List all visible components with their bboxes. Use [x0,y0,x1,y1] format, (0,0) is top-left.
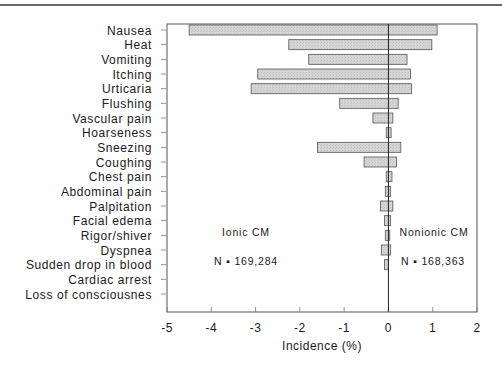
category-labels: NauseaHeatVomitingItchingUrticariaFlushi… [25,24,166,302]
x-tick-label: -3 [250,321,262,335]
x-tick-label: -1 [338,321,350,335]
x-tick-label: -2 [294,321,306,335]
nonionic-cm-label: Nonionic CM [400,226,469,238]
category-label: Hoarseness [82,126,152,140]
category-label: Dyspnea [100,244,152,258]
category-label: Flushing [102,97,152,111]
category-label: Rigor/shiver [81,229,152,243]
category-label: Urticaria [102,82,152,96]
bar-rigor-shiver [385,230,389,240]
bar-itching [258,69,411,79]
nonionic-cm-n: N ▪ 168,363 [401,255,465,267]
bar-nausea [189,25,437,35]
bar-facial-edema [384,216,390,226]
bar-vomiting [309,54,407,64]
bar-heat [289,40,432,50]
category-label: Abdominal pain [61,185,152,199]
ionic-cm-n: N ▪ 169,284 [214,255,278,267]
bar-urticaria [251,84,411,94]
bar-vascular-pain [373,113,393,123]
x-tick-label: -5 [161,321,173,335]
x-tick-label: 0 [385,321,392,335]
category-label: Sneezing [97,141,152,155]
category-label: Loss of consciousnes [25,288,152,302]
category-label: Heat [124,38,152,52]
bar-dyspnea [381,245,390,255]
category-label: Vascular pain [72,112,152,126]
category-label: Itching [112,68,152,82]
category-label: Vomiting [101,53,152,67]
category-label: Chest pain [89,170,152,184]
ionic-cm-label: Ionic CM [222,226,270,238]
category-label: Palpitation [89,200,152,214]
category-label: Facial edema [73,214,152,228]
x-tick-label: 1 [429,321,436,335]
x-tick-label: -4 [205,321,217,335]
x-axis-label: Incidence (%) [282,339,362,353]
plot-frame [167,24,477,312]
bar-sudden-drop-in-blood [384,260,388,270]
category-label: Sudden drop in blood [26,258,152,272]
bar-coughing [364,157,396,167]
x-tick-label: 2 [473,321,480,335]
bar-flushing [340,98,398,108]
category-label: Cardiac arrest [68,273,152,287]
bar-chest-pain [386,172,392,182]
incidence-bar-chart: NauseaHeatVomitingItchingUrticariaFlushi… [0,0,502,367]
category-label: Coughing [96,156,152,170]
bar-palpitation [380,201,392,211]
category-label: Nausea [107,24,152,38]
x-axis-ticks: -5-4-3-2-1012 [161,307,480,335]
